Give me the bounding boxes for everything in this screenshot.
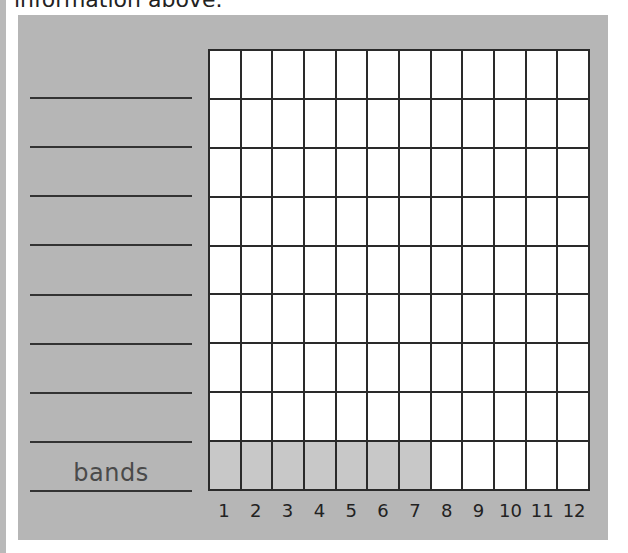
row-label-line: [30, 490, 192, 492]
grid-cell: [400, 344, 432, 393]
grid-cell: [495, 100, 527, 149]
grid-cell: [463, 442, 495, 491]
grid-cell: [495, 198, 527, 247]
grid-cell: [400, 295, 432, 344]
grid-cell: [242, 198, 274, 247]
grid-cell: [210, 393, 242, 442]
grid-cell: [463, 344, 495, 393]
grid-cell: [305, 51, 337, 100]
grid-cell: [337, 442, 369, 491]
grid-cell: [432, 149, 464, 198]
grid-cell: [368, 51, 400, 100]
x-axis-label: 2: [240, 500, 272, 521]
grid-cell: [558, 344, 590, 393]
grid-cell: [463, 247, 495, 296]
grid-cell: [495, 247, 527, 296]
grid-cell: [337, 344, 369, 393]
grid-cell: [558, 393, 590, 442]
x-axis-labels: 123456789101112: [208, 500, 590, 521]
grid-cell: [400, 149, 432, 198]
grid-cell: [305, 149, 337, 198]
grid-cell: [432, 344, 464, 393]
x-axis-label: 1: [208, 500, 240, 521]
grid-cell: [463, 295, 495, 344]
grid-cell: [273, 100, 305, 149]
x-axis-label: 7: [399, 500, 431, 521]
grid-cell: [210, 442, 242, 491]
grid-cell: [527, 198, 559, 247]
x-axis-label: 11: [526, 500, 558, 521]
grid-cell: [558, 51, 590, 100]
grid-cell: [337, 393, 369, 442]
row-label-line: [30, 392, 192, 394]
grid-cell: [337, 51, 369, 100]
grid-cell: [432, 442, 464, 491]
grid-cell: [210, 100, 242, 149]
grid-cell: [432, 100, 464, 149]
grid-cell: [400, 442, 432, 491]
grid-cell: [210, 149, 242, 198]
grid-cell: [242, 247, 274, 296]
grid-cell: [242, 393, 274, 442]
grid-cell: [527, 51, 559, 100]
pictograph-grid: [208, 49, 590, 491]
grid-cell: [368, 442, 400, 491]
row-label-line: [30, 195, 192, 197]
x-axis-label: 4: [304, 500, 336, 521]
grid-cell: [337, 295, 369, 344]
grid-cell: [527, 100, 559, 149]
grid-cell: [242, 442, 274, 491]
grid-cell: [495, 149, 527, 198]
grid-cell: [400, 393, 432, 442]
grid-cell: [337, 100, 369, 149]
grid-cell: [273, 247, 305, 296]
grid-cell: [305, 198, 337, 247]
row-label-line: [30, 441, 192, 443]
grid-cell: [305, 344, 337, 393]
grid-cell: [242, 344, 274, 393]
grid-cell: [558, 247, 590, 296]
grid-cell: [463, 198, 495, 247]
grid-cell: [400, 100, 432, 149]
grid-cell: [210, 295, 242, 344]
grid-cell: [210, 51, 242, 100]
grid-cell: [558, 295, 590, 344]
x-axis-label: 8: [431, 500, 463, 521]
grid-cell: [337, 247, 369, 296]
grid-cell: [368, 247, 400, 296]
grid-cell: [527, 149, 559, 198]
grid-cell: [527, 247, 559, 296]
x-axis-label: 10: [495, 500, 527, 521]
x-axis-label: 3: [272, 500, 304, 521]
row-label-line: [30, 294, 192, 296]
grid-cell: [527, 442, 559, 491]
grid-cell: [368, 295, 400, 344]
grid-cell: [242, 149, 274, 198]
grid-cell: [242, 51, 274, 100]
grid-cell: [527, 393, 559, 442]
grid-cell: [210, 344, 242, 393]
grid-cell: [527, 344, 559, 393]
grid-cell: [495, 51, 527, 100]
grid-cell: [558, 149, 590, 198]
grid-cell: [527, 295, 559, 344]
grid-cell: [273, 393, 305, 442]
grid-cell: [495, 442, 527, 491]
grid-cell: [463, 100, 495, 149]
grid-cell: [368, 198, 400, 247]
grid-cell: [432, 295, 464, 344]
left-edge-strip: [0, 0, 6, 553]
grid-cell: [305, 393, 337, 442]
row-label-line: [30, 244, 192, 246]
instruction-text: information above.: [14, 0, 222, 12]
grid-cell: [432, 198, 464, 247]
x-axis-label: 6: [367, 500, 399, 521]
x-axis-label: 12: [558, 500, 590, 521]
grid-cell: [210, 198, 242, 247]
grid-cell: [273, 442, 305, 491]
row-label-line: [30, 146, 192, 148]
grid-cell: [432, 51, 464, 100]
grid-cell: [273, 198, 305, 247]
grid-cell: [400, 198, 432, 247]
grid-cell: [242, 295, 274, 344]
